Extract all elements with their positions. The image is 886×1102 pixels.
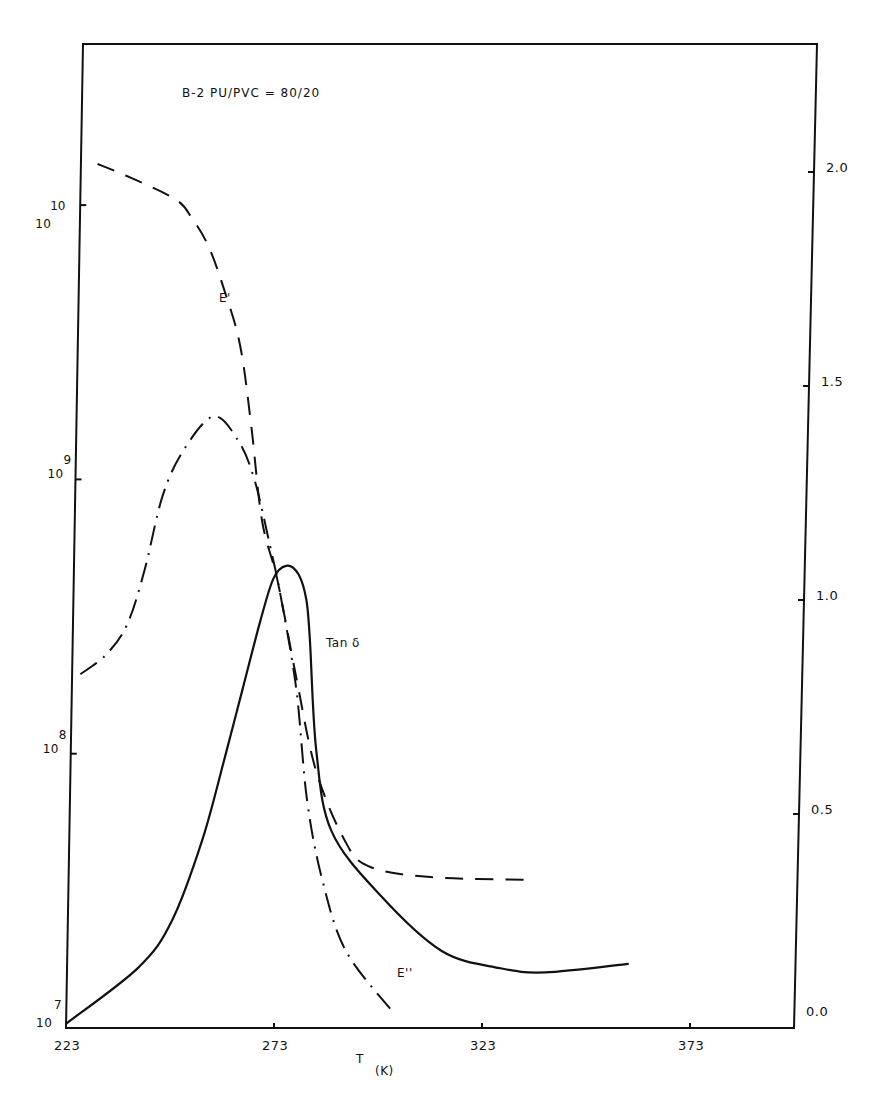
y-left-tick-base: 10: [43, 742, 59, 756]
series-label-e-double-prime: E'': [397, 966, 413, 980]
y-left-tick-exponent: 9: [63, 453, 71, 467]
y-right-tick-label: 0.0: [806, 1004, 828, 1019]
y-left-tick-base: 10: [35, 217, 51, 231]
x-tick-label: 373: [678, 1038, 704, 1053]
y-left-tick-exponent: 7: [54, 998, 62, 1012]
axis-ticks: [66, 172, 814, 1028]
x-tick-label: 273: [262, 1038, 288, 1053]
chart-canvas: [0, 0, 886, 1102]
y-left-tick-exponent: 8: [59, 728, 67, 742]
y-left-tick-exponent: 10: [50, 199, 65, 213]
y-right-tick-label: 1.5: [821, 374, 843, 389]
x-tick-label: 223: [54, 1038, 80, 1053]
y-right-tick-label: 1.0: [816, 588, 838, 603]
series-tan-delta-line: [66, 566, 629, 1024]
series-e-prime-line: [98, 164, 535, 880]
chart-title: B-2 PU/PVC = 80/20: [182, 86, 320, 100]
x-axis-unit: (K): [375, 1064, 394, 1078]
series-label-tan-delta: Tan δ: [326, 636, 360, 650]
y-right-tick-label: 0.5: [811, 802, 833, 817]
series-label-e-prime: E': [219, 291, 231, 305]
series-e-double-prime-line: [80, 416, 395, 1014]
y-right-tick-label: 2.0: [826, 160, 848, 175]
x-tick-label: 323: [470, 1038, 496, 1053]
x-axis-title: T: [356, 1052, 364, 1066]
y-left-tick-base: 10: [36, 1016, 52, 1030]
plot-frame: [66, 44, 817, 1028]
y-left-tick-base: 10: [47, 467, 63, 481]
